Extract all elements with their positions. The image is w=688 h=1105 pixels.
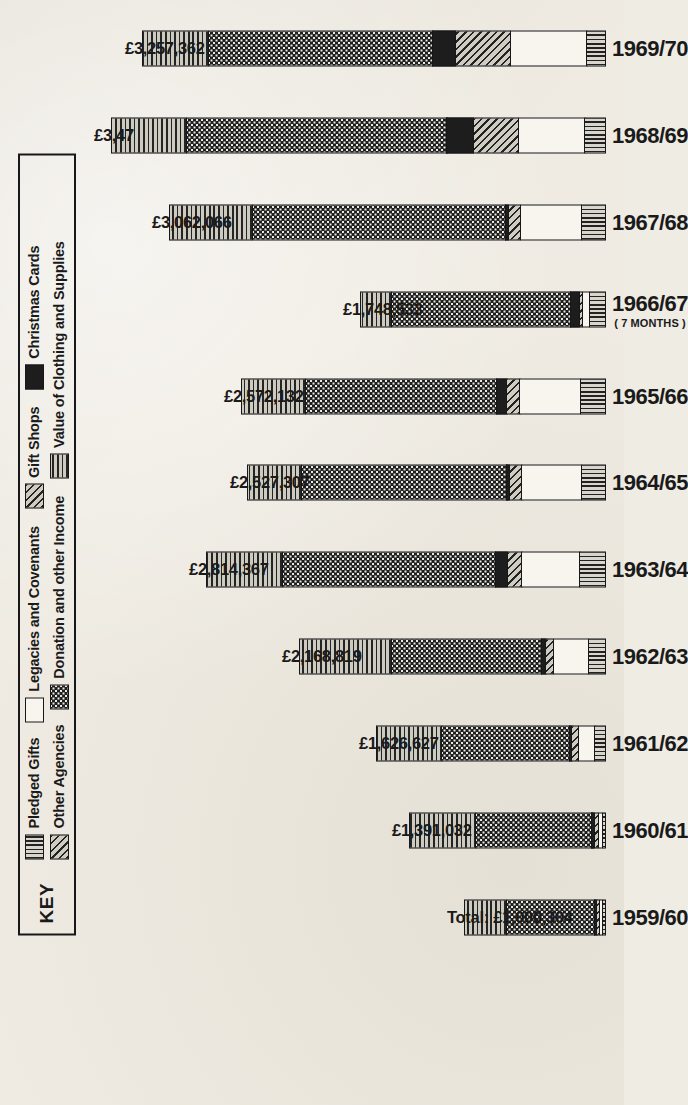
- legend-row-secondary: Other Agencies Donation and other Income…: [50, 163, 69, 859]
- plot-area: Total: £1,000,304£1,391,032£1,626,627£2,…: [90, 30, 606, 935]
- legend-label-christmas-cards: Christmas Cards: [27, 245, 42, 358]
- bar-total-label-1963-64: £2,814,367: [189, 560, 269, 579]
- bar-segment-pledged-gifts: [602, 812, 606, 848]
- bar-1968-69[interactable]: [113, 117, 606, 153]
- bar-segment-legacies-and-covenants: [518, 117, 586, 153]
- legend-item-legacies-and-covenants[interactable]: Legacies and Covenants: [25, 526, 44, 723]
- legend-item-other-agencies[interactable]: Other Agencies: [50, 724, 69, 859]
- bar-total-label-1960-61: £1,391,032: [392, 821, 472, 840]
- legend-title: KEY: [36, 882, 58, 923]
- bar-segment-donation-and-other-income: [391, 638, 543, 674]
- bar-total-label-1962-63: £2,168,819: [282, 647, 362, 666]
- bar-segment-donation-and-other-income: [186, 117, 448, 153]
- bar-total-label-1959-60: Total: £1,000,304: [447, 908, 573, 927]
- legend-item-donation-and-other-income[interactable]: Donation and other Income: [50, 495, 69, 709]
- bar-segment-donation-and-other-income: [475, 812, 592, 848]
- legend-swatch-legacies-and-covenants: [25, 697, 44, 722]
- bar-segment-donation-and-other-income: [301, 465, 508, 501]
- bar-segment-pledged-gifts: [581, 465, 606, 501]
- bar-total-label-1965-66: £2,572,132: [224, 386, 304, 405]
- legend-label-legacies-and-covenants: Legacies and Covenants: [27, 526, 42, 692]
- legend-swatch-pledged-gifts: [25, 834, 44, 859]
- bar-total-label-1969-70: £3,257,362: [125, 39, 205, 58]
- bar-segment-legacies-and-covenants: [553, 638, 589, 674]
- legend-row-primary: Pledged Gifts Legacies and Covenants Gif…: [25, 163, 44, 859]
- bar-segment-other-agencies: [455, 30, 511, 66]
- category-label-1960-61: 1960/61: [612, 817, 688, 843]
- bar-1967-68[interactable]: [171, 204, 606, 240]
- bar-segment-legacies-and-covenants: [520, 204, 582, 240]
- category-label-1962-63: 1962/63: [612, 643, 688, 669]
- legend-item-value-of-clothing-and-supplies[interactable]: Value of Clothing and Supplies: [50, 241, 69, 479]
- legend-swatch-gift-shops: [25, 484, 44, 509]
- bar-segment-donation-and-other-income: [441, 725, 570, 761]
- bar-total-label-1961-62: £1,626,627: [359, 734, 439, 753]
- category-label-1964-65: 1964/65: [612, 470, 688, 496]
- category-label-1959-60: 1959/60: [612, 904, 688, 930]
- bar-segment-pledged-gifts: [586, 30, 606, 66]
- legend-swatch-donation-and-other-income: [50, 684, 69, 709]
- category-label-1965-66: 1965/66: [612, 383, 688, 409]
- bar-segment-christmas-cards: [432, 30, 457, 66]
- bar-segment-legacies-and-covenants: [521, 551, 580, 587]
- legend-item-pledged-gifts[interactable]: Pledged Gifts: [25, 737, 44, 859]
- bar-segment-donation-and-other-income: [282, 551, 496, 587]
- legend-label-gift-shops: Gift Shops: [27, 406, 42, 477]
- category-label-1963-64: 1963/64: [612, 556, 688, 582]
- category-label-1969-70: 1969/70: [612, 35, 688, 61]
- legend-swatch-value-of-clothing-and-supplies: [50, 453, 69, 478]
- bar-segment-pledged-gifts: [589, 291, 606, 327]
- bar-segment-christmas-cards: [446, 117, 474, 153]
- bar-segment-donation-and-other-income: [305, 378, 497, 414]
- bar-segment-donation-and-other-income: [208, 30, 434, 66]
- legend-label-donation-and-other-income: Donation and other Income: [52, 495, 67, 678]
- bar-segment-legacies-and-covenants: [578, 725, 596, 761]
- bar-total-label-1967-68: £3,062,066: [152, 212, 232, 231]
- legend-swatch-christmas-cards: [25, 364, 44, 389]
- bar-segment-other-agencies: [473, 117, 519, 153]
- bar-total-label-1968-69: £3,47: [94, 125, 134, 144]
- chart-legend: KEY Pledged Gifts Legacies and Covenants…: [18, 153, 76, 935]
- category-label-1961-62: 1961/62: [612, 730, 688, 756]
- legend-item-gift-shops[interactable]: Gift Shops: [25, 406, 44, 508]
- bar-segment-pledged-gifts: [580, 378, 606, 414]
- bar-segment-donation-and-other-income: [252, 204, 506, 240]
- legend-swatch-other-agencies: [50, 834, 69, 859]
- bar-segment-pledged-gifts: [602, 899, 606, 935]
- bar-segment-legacies-and-covenants: [519, 378, 581, 414]
- bar-segment-pledged-gifts: [581, 204, 606, 240]
- bar-segment-other-agencies: [507, 551, 523, 587]
- legend-item-christmas-cards[interactable]: Christmas Cards: [25, 245, 44, 389]
- bar-1969-70[interactable]: [143, 30, 606, 66]
- bar-segment-pledged-gifts: [584, 117, 606, 153]
- legend-label-value-of-clothing-and-supplies: Value of Clothing and Supplies: [52, 241, 67, 448]
- legend-label-other-agencies: Other Agencies: [52, 724, 67, 828]
- bar-total-label-1964-65: £2,527,307: [230, 473, 310, 492]
- category-label-1967-68: 1967/68: [612, 209, 688, 235]
- bar-segment-pledged-gifts: [579, 551, 606, 587]
- bar-total-label-1966-67: £1,748,533: [343, 299, 423, 318]
- bar-segment-legacies-and-covenants: [510, 30, 588, 66]
- legend-label-pledged-gifts: Pledged Gifts: [27, 737, 42, 828]
- bar-segment-pledged-gifts: [594, 725, 606, 761]
- category-label-1966-67: 1966/67( 7 MONTHS ): [612, 290, 688, 328]
- bar-segment-pledged-gifts: [588, 638, 607, 674]
- category-label-1968-69: 1968/69: [612, 122, 688, 148]
- bar-segment-legacies-and-covenants: [521, 465, 582, 501]
